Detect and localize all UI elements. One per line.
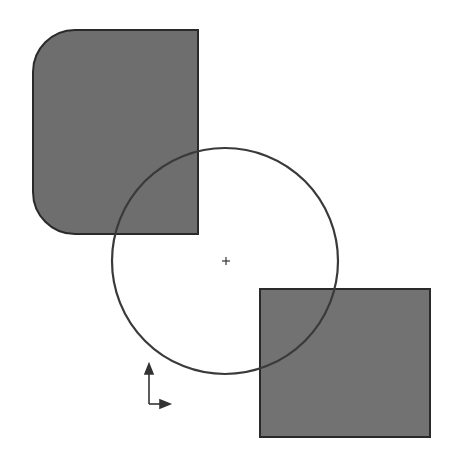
center-mark-icon: [222, 257, 230, 265]
rounded-rectangle-shape[interactable]: [33, 30, 198, 234]
axis-triad-icon: [145, 364, 170, 408]
square-shape[interactable]: [260, 289, 430, 437]
sketch-canvas: [0, 0, 460, 458]
